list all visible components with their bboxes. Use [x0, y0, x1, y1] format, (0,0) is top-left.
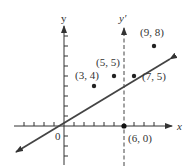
- y-prime-label: y′: [118, 12, 127, 24]
- x-axis-label: x: [176, 120, 182, 132]
- point-label-5-5: (5, 5): [96, 56, 120, 69]
- point-5-5: [112, 74, 116, 78]
- point-label-9-8: (9, 8): [140, 26, 164, 39]
- point-label-7-5: (7, 5): [142, 70, 166, 83]
- y-axis-label: y: [61, 12, 67, 24]
- point-label-6-0: (6, 0): [128, 132, 152, 145]
- point-label-3-4: (3, 4): [75, 69, 99, 82]
- coordinate-diagram: x y 0 y′ (3, 4) (5,: [0, 0, 190, 167]
- y-axis: y 0: [55, 12, 68, 165]
- data-points: (3, 4) (5, 5) (7, 5) (9, 8) (6, 0): [75, 26, 166, 145]
- point-6-0: [121, 123, 126, 128]
- point-3-4: [92, 84, 96, 88]
- x-axis: x: [14, 120, 182, 132]
- point-7-5: [132, 74, 136, 78]
- origin-label: 0: [55, 130, 61, 142]
- point-9-8: [152, 44, 156, 48]
